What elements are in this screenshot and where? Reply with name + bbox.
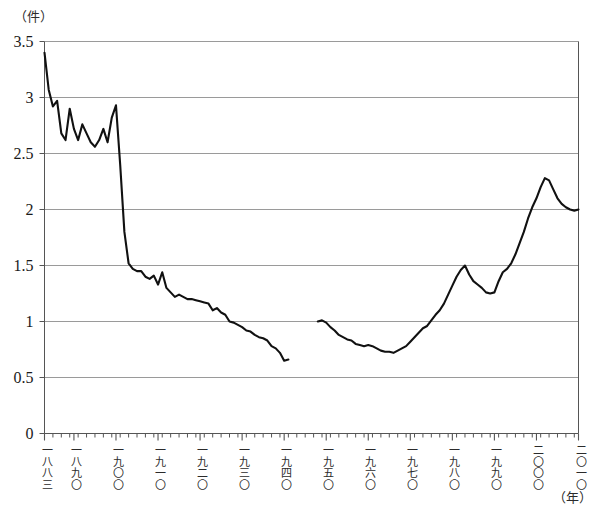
x-axis-tick-label: 一九八〇	[445, 444, 459, 490]
x-axis-tick-label: 一八九〇	[67, 444, 81, 490]
x-axis-tick-label: 一九七〇	[403, 444, 417, 490]
y-axis-tick-label: 0.5	[0, 369, 34, 387]
x-axis-tick-label: 一九六〇	[361, 444, 375, 490]
y-axis-tick-label: 3	[0, 89, 34, 107]
y-axis-tick-label: 1.5	[0, 257, 34, 275]
x-axis-unit-label: （年）	[553, 487, 592, 506]
x-axis-tick-label: 一九九〇	[487, 444, 501, 490]
y-axis-tick-label: 3.5	[0, 33, 34, 51]
y-axis-tick-label: 2.5	[0, 145, 34, 163]
x-axis-tick-label: 二〇〇〇	[529, 444, 543, 490]
x-axis-tick-label: 一九二〇	[193, 444, 207, 490]
x-axis-tick-label: 一九三〇	[235, 444, 249, 490]
x-axis-tick-label: 一九四〇	[277, 444, 291, 490]
x-axis-tick-label: 一八八三	[38, 444, 52, 490]
y-axis-tick-label: 1	[0, 313, 34, 331]
x-axis-tick-label: 二〇一〇	[572, 444, 586, 490]
x-axis-tick-label: 一九〇〇	[109, 444, 123, 490]
y-axis-tick-label: 0	[0, 425, 34, 443]
data-series-line	[45, 53, 289, 361]
y-axis-tick-label: 2	[0, 201, 34, 219]
x-axis-tick-label: 一九五〇	[319, 444, 333, 490]
x-axis-tick-label: 一九一〇	[151, 444, 165, 490]
